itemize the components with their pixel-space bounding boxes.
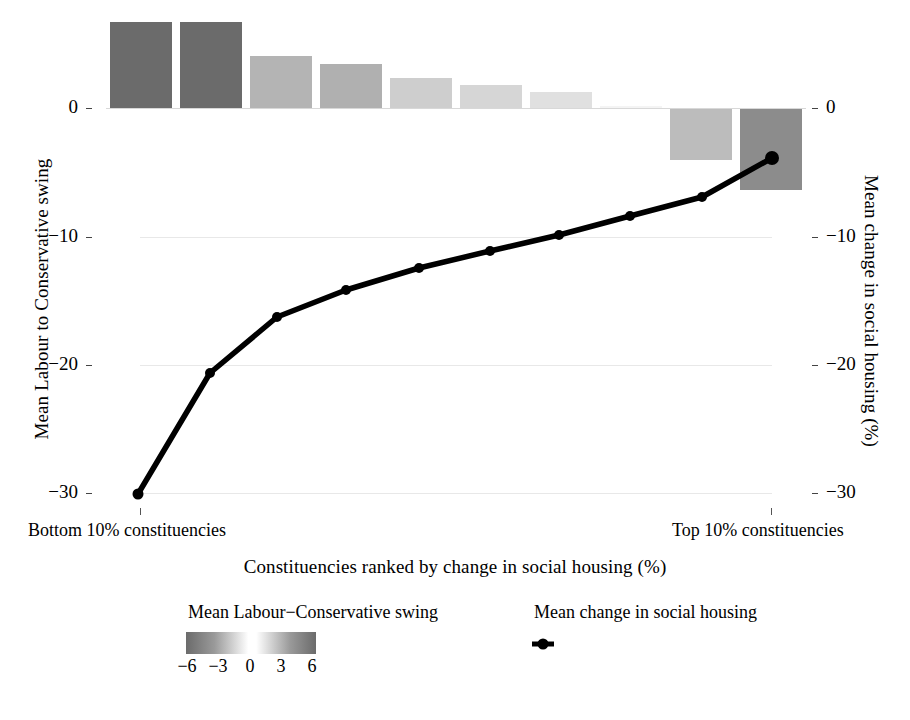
colorbar-tick-minus3: −3 <box>203 656 233 677</box>
y-left-tick-label-0: 0 <box>14 96 78 118</box>
legend-colorbar-title: Mean Labour−Conservative swing <box>188 602 438 623</box>
colorbar-tick-minus6: −6 <box>172 656 202 677</box>
bar-3 <box>250 56 312 108</box>
bar-4 <box>320 64 382 108</box>
y-right-tick-label-10: −10 <box>826 225 890 247</box>
data-point-2 <box>205 368 215 378</box>
legend-colorbar-ticks: −6 −3 0 3 6 <box>176 656 326 682</box>
legend-line-title: Mean change in social housing <box>534 602 757 623</box>
bar-6 <box>460 85 522 108</box>
gridline-minus30 <box>140 493 772 494</box>
legend-colorbar <box>186 632 316 654</box>
x-tick-mark-right <box>771 508 772 515</box>
y-left-tick-dash-0 <box>86 108 92 109</box>
data-point-7 <box>554 230 564 240</box>
y-right-tick-dash-20 <box>812 365 818 366</box>
chart-figure: Mean Labour to Conservative swing 0 −10 … <box>0 0 910 720</box>
data-point-6 <box>485 246 495 256</box>
data-point-8 <box>625 211 635 221</box>
bar-8 <box>600 106 662 108</box>
colorbar-tick-zero: 0 <box>235 656 265 677</box>
y-left-tick-dash-30 <box>86 493 92 494</box>
line-path <box>138 158 772 494</box>
data-point-1 <box>133 489 144 500</box>
y-axis-right-title: Mean change in social housing (%) <box>860 91 882 531</box>
colorbar-tick-6: 6 <box>297 656 327 677</box>
y-right-tick-label-20: −20 <box>826 353 890 375</box>
y-right-tick-label-30: −30 <box>826 481 890 503</box>
bar-7 <box>530 92 592 108</box>
data-point-9 <box>697 192 707 202</box>
x-tick-mark-left <box>140 508 141 515</box>
bar-5 <box>390 78 452 108</box>
data-point-5 <box>414 263 424 273</box>
bar-2 <box>180 22 242 108</box>
legend-line-marker <box>538 639 549 650</box>
colorbar-tick-3: 3 <box>266 656 296 677</box>
y-right-tick-dash-10 <box>812 237 818 238</box>
x-axis-label-top-decile: Top 10% constituencies <box>672 520 844 541</box>
data-point-3 <box>272 312 282 322</box>
gridline-minus20 <box>140 365 772 366</box>
bar-9 <box>670 109 732 160</box>
y-left-tick-label-20: −20 <box>14 353 78 375</box>
bar-1 <box>110 22 172 108</box>
y-right-tick-dash-0 <box>812 108 818 109</box>
y-left-tick-label-10: −10 <box>14 225 78 247</box>
data-point-4 <box>341 285 351 295</box>
y-left-tick-dash-20 <box>86 365 92 366</box>
y-left-tick-label-30: −30 <box>14 481 78 503</box>
y-right-tick-dash-30 <box>812 493 818 494</box>
x-axis-title: Constituencies ranked by change in socia… <box>0 556 910 578</box>
legend-line-key <box>530 636 570 652</box>
y-axis-left-title: Mean Labour to Conservative swing <box>31 89 53 509</box>
y-right-tick-label-0: 0 <box>826 96 890 118</box>
y-left-tick-dash-10 <box>86 237 92 238</box>
gridline-minus10 <box>140 237 772 238</box>
x-axis-label-bottom-decile: Bottom 10% constituencies <box>28 520 226 541</box>
bar-10 <box>740 109 802 190</box>
